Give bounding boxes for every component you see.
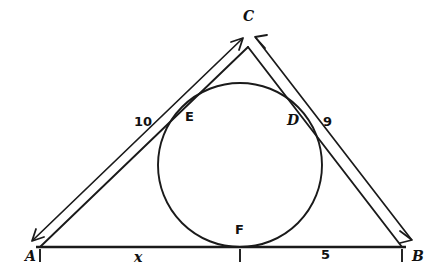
triangle-side-bc [248, 47, 402, 247]
measure-label-fb: 5 [321, 248, 330, 261]
measure-line-bc [256, 38, 411, 239]
geometry-figure: A B C D E F 10 9 x 5 [0, 0, 439, 278]
measure-label-af: x [134, 250, 142, 264]
tangent-label-e: E [185, 110, 194, 123]
vertex-label-c: C [243, 9, 254, 23]
measure-label-bc: 9 [323, 115, 332, 128]
triangle-side-ac [40, 47, 248, 247]
vertex-label-b: B [412, 249, 424, 263]
geometry-canvas [0, 0, 439, 278]
measure-label-ac: 10 [134, 115, 152, 128]
vertex-label-a: A [25, 249, 36, 263]
measure-line-ac [33, 39, 242, 240]
measure-arrow-bc-start [255, 35, 267, 48]
tangent-label-f: F [235, 223, 244, 236]
tangent-label-d: D [287, 113, 299, 127]
